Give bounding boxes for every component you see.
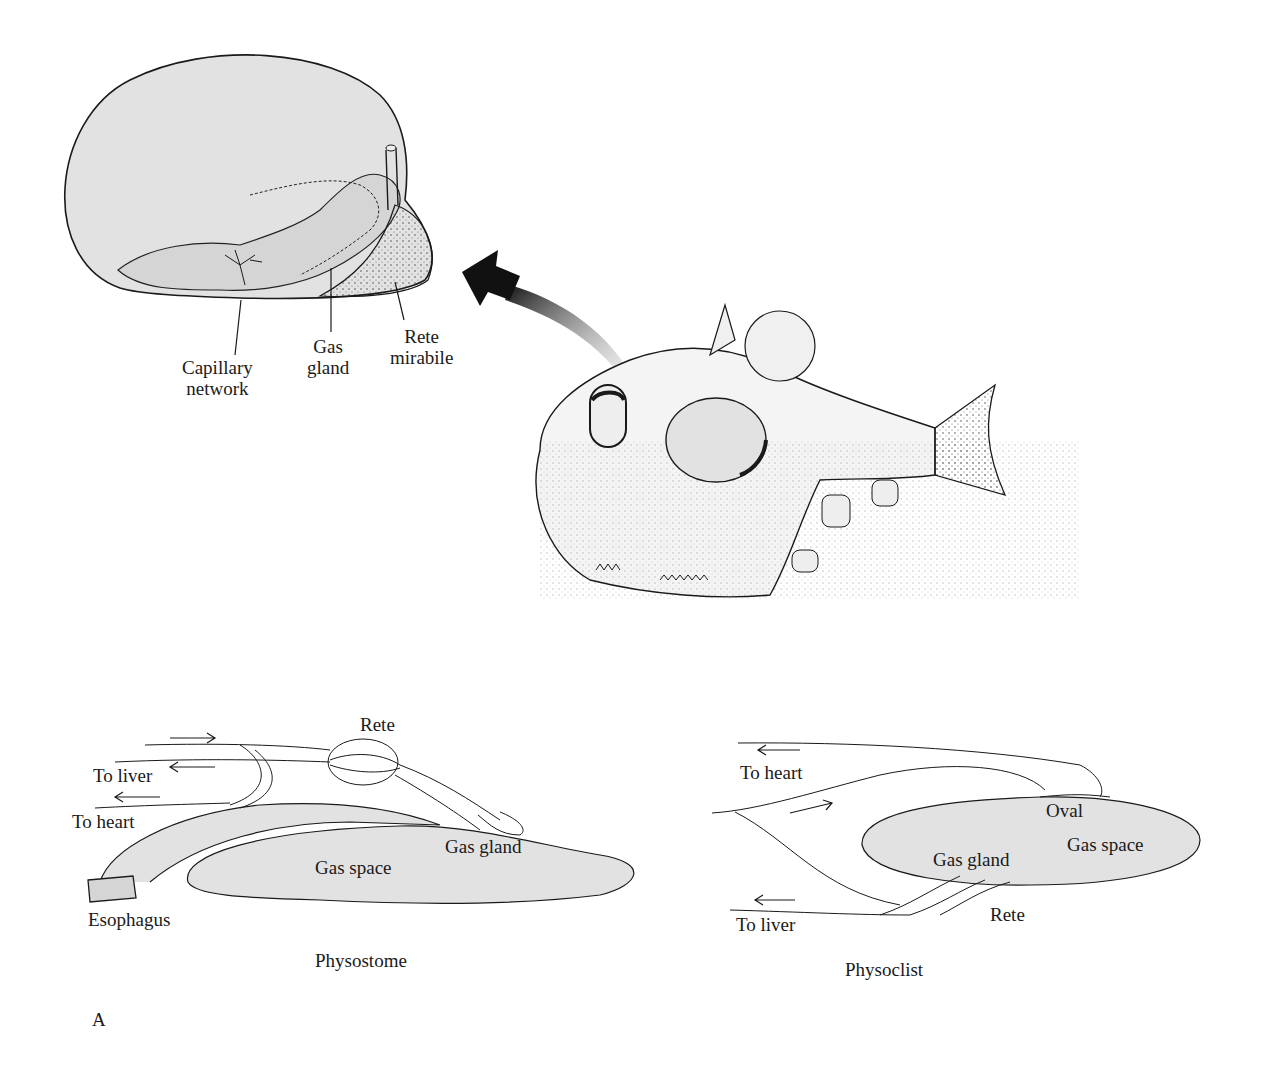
label-esophagus: Esophagus [88,909,170,930]
label-physoclist-to-heart: To heart [740,762,803,783]
label-physoclist-to-liver: To liver [736,914,795,935]
label-physostome-gas-space: Gas space [315,857,392,878]
hatchetfish-illustration [536,305,1080,600]
label-capillary: Capillary [182,357,253,378]
label-physostome-to-liver: To liver [93,765,152,786]
swim-bladder-detail [65,55,432,355]
label-oval: Oval [1046,800,1083,821]
label-rete-mirabile: Rete mirabile [390,326,453,368]
label-physoclist-gas-gland: Gas gland [933,849,1010,870]
caption-physoclist: Physoclist [845,959,923,980]
label-gas-gland-detail: Gas gland [307,336,349,378]
label-rete-word: Rete [390,326,453,347]
caption-physostome: Physostome [315,950,407,971]
label-physostome-gas-gland: Gas gland [445,836,522,857]
label-mirabile-word: mirabile [390,347,453,368]
label-physoclist-rete: Rete [990,904,1025,925]
label-physostome-to-heart: To heart [72,811,135,832]
label-capillary-network: Capillary network [182,357,253,399]
label-gas: Gas [307,336,349,357]
label-network: network [182,378,253,399]
panel-letter: A [92,1009,106,1030]
label-physoclist-gas-space: Gas space [1067,834,1144,855]
label-gland: gland [307,357,349,378]
label-physostome-rete: Rete [360,714,395,735]
